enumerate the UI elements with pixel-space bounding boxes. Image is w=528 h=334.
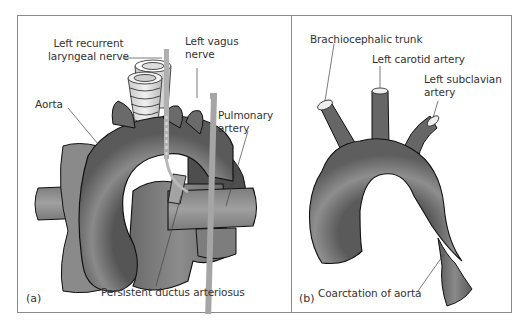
label-line: artery [218,122,273,135]
label-left-recurrent-laryngeal-nerve: Left recurrent laryngeal nerve [48,37,129,63]
label-brachiocephalic-trunk: Brachiocephalic trunk [310,33,422,46]
label-line: laryngeal nerve [48,50,129,63]
figure-frame: Left recurrent laryngeal nerve Left vagu… [17,15,512,313]
label-pulmonary-artery: Pulmonary artery [218,109,273,135]
label-line: Pulmonary [218,109,273,122]
label-aorta: Aorta [35,98,63,111]
panel-tag-a: (a) [26,292,41,305]
label-left-subclavian-artery: Left subclavian artery [424,73,502,99]
label-line: artery [424,86,502,99]
label-line: Left subclavian [424,73,502,86]
panel-b-coarctation-illustration: Brachiocephalic trunk Left carotid arter… [292,16,511,312]
panel-a-pda-illustration: Left recurrent laryngeal nerve Left vagu… [18,16,291,312]
label-line: nerve [185,48,239,61]
label-line: Left vagus [185,35,239,48]
label-left-carotid-artery: Left carotid artery [372,53,465,66]
label-persistent-ductus-arteriosus: Persistent ductus arteriosus [101,286,245,299]
label-coarctation-of-aorta: Coarctation of aorta [318,287,421,300]
label-left-vagus-nerve: Left vagus nerve [185,35,239,61]
label-line: Left recurrent [48,37,129,50]
panel-tag-b: (b) [299,292,315,305]
